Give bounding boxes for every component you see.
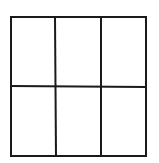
grid-cell-r2-c2 (57, 88, 100, 155)
grid-cell-r1-c1 (12, 18, 54, 85)
grid-cell-r1-c2 (57, 18, 100, 85)
grid-cell-r1-c3 (102, 18, 145, 85)
grid-cell-r2-c3 (102, 88, 145, 155)
grid-diagram (0, 0, 159, 163)
grid-cell-r2-c1 (12, 88, 54, 155)
grid-horizontal-divider (11, 86, 146, 87)
